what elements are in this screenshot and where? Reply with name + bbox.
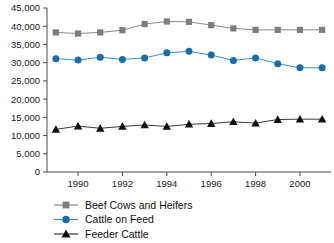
data-point-marker — [252, 27, 258, 33]
x-axis: 199019921994199619982000 — [47, 172, 331, 189]
data-point-marker — [75, 30, 81, 36]
data-point-marker — [97, 29, 103, 35]
x-tick-label: 2000 — [289, 178, 310, 189]
data-point-marker — [275, 27, 281, 33]
data-point-marker — [319, 64, 326, 71]
data-point-marker — [119, 27, 125, 33]
x-tick-label: 1996 — [201, 178, 222, 189]
chart-legend: Beef Cows and HeifersCattle on FeedFeede… — [54, 199, 192, 240]
data-point-marker — [142, 21, 148, 27]
data-point-marker — [208, 52, 215, 59]
data-point-marker — [208, 22, 214, 28]
y-tick-label: 10,000 — [11, 130, 40, 141]
data-point-marker — [186, 19, 192, 25]
y-tick-label: 45,000 — [11, 2, 40, 13]
data-point-marker — [186, 48, 193, 55]
y-tick-label: 0 — [35, 166, 40, 177]
legend-label-0: Beef Cows and Heifers — [85, 199, 192, 211]
legend-marker-1 — [62, 216, 70, 224]
x-tick-label: 1998 — [245, 178, 266, 189]
data-point-marker — [53, 29, 59, 35]
data-point-marker — [230, 25, 236, 31]
data-point-marker — [229, 118, 237, 126]
y-tick-label: 40,000 — [11, 21, 40, 32]
plot-area-series — [52, 18, 327, 132]
data-point-marker — [119, 56, 126, 63]
y-tick-label: 35,000 — [11, 39, 40, 50]
y-tick-label: 15,000 — [11, 112, 40, 123]
chart-container: 05,00010,00015,00020,00025,00030,00035,0… — [0, 0, 334, 243]
data-point-marker — [97, 54, 104, 61]
y-tick-label: 25,000 — [11, 75, 40, 86]
data-point-marker — [140, 121, 148, 129]
y-axis: 05,00010,00015,00020,00025,00030,00035,0… — [11, 2, 47, 177]
data-point-marker — [297, 27, 303, 33]
y-tick-label: 20,000 — [11, 94, 40, 105]
data-point-marker — [164, 18, 170, 24]
data-point-marker — [252, 54, 259, 61]
data-point-marker — [296, 64, 303, 71]
x-tick-label: 1994 — [156, 178, 177, 189]
data-point-marker — [319, 27, 325, 33]
x-tick-label: 1990 — [67, 178, 88, 189]
y-tick-label: 5,000 — [16, 148, 40, 159]
data-point-marker — [163, 49, 170, 56]
line-chart: 05,00010,00015,00020,00025,00030,00035,0… — [0, 0, 334, 243]
y-tick-label: 30,000 — [11, 57, 40, 68]
data-point-marker — [52, 55, 59, 62]
legend-label-2: Feeder Cattle — [85, 228, 149, 240]
data-point-marker — [74, 122, 82, 130]
x-tick-label: 1992 — [112, 178, 133, 189]
data-point-marker — [230, 57, 237, 64]
legend-label-1: Cattle on Feed — [85, 213, 154, 225]
data-point-marker — [141, 54, 148, 61]
data-point-marker — [274, 60, 281, 67]
data-point-marker — [75, 57, 82, 64]
legend-marker-0 — [63, 202, 70, 209]
